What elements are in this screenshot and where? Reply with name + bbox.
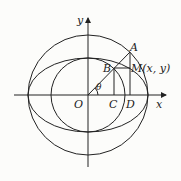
point-D-label: D [125, 98, 135, 111]
point-M-label: M(x, y) [130, 62, 170, 75]
axis-x-label: x [156, 98, 163, 111]
origin-label: O [74, 98, 83, 111]
point-A-label: A [129, 41, 138, 54]
angle-theta-label: θ [96, 82, 102, 92]
ellipse-diagram: y x O A B C D M(x, y) θ [0, 0, 181, 181]
point-B-label: B [102, 62, 111, 75]
axis-y-label: y [76, 14, 84, 27]
point-C-label: C [109, 98, 118, 111]
